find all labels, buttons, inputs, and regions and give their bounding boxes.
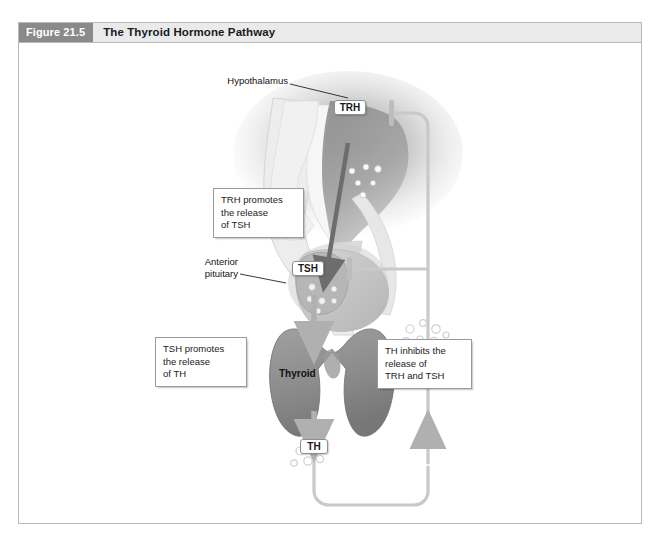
trh-chip: TRH: [334, 100, 366, 115]
trh-inhibition-bar: [389, 100, 394, 126]
diagram-canvas: [18, 43, 642, 524]
thyroid-label: Thyroid: [279, 368, 316, 379]
screenshot-root: Figure 21.5 The Thyroid Hormone Pathway: [0, 0, 669, 538]
tsh-inhibition-bar: [347, 257, 352, 281]
hypothalamus-label: Hypothalamus: [208, 75, 288, 87]
figure-header: Figure 21.5 The Thyroid Hormone Pathway: [18, 22, 642, 43]
th-chip: TH: [300, 439, 328, 454]
thyroid-illustration: [270, 329, 395, 436]
figure-number-badge: Figure 21.5: [19, 23, 93, 42]
callout-tsh-promotes: TSH promotes the release of TH: [155, 337, 247, 387]
callout-trh-promotes: TRH promotes the release of TSH: [213, 188, 304, 238]
pituitary-illustration: [288, 243, 389, 332]
callout-th-inhibits: TH inhibits the release of TRH and TSH: [377, 339, 472, 389]
figure-title: The Thyroid Hormone Pathway: [93, 23, 641, 42]
tsh-chip: TSH: [292, 261, 324, 276]
anterior-pituitary-label: Anterior pituitary: [180, 256, 238, 280]
